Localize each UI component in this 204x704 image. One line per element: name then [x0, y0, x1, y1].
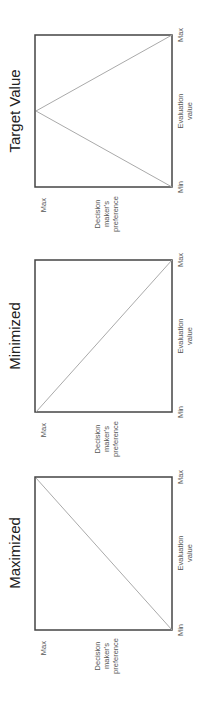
x-axis-max-label: Max: [176, 253, 185, 267]
preference-function-diagram: Target Value Min Max Evaluation value Ma…: [0, 0, 204, 704]
panel-title: Maximized: [6, 517, 23, 589]
preference-curve: [36, 35, 172, 187]
y-axis-title-line1: Decision: [93, 642, 102, 671]
y-axis-title-line2: maker's: [102, 426, 111, 452]
y-axis-title-line3: preference: [111, 196, 120, 232]
x-axis-title-line1: Evaluation: [176, 318, 185, 353]
y-axis-title-line3: preference: [111, 638, 120, 674]
preference-curve: [36, 260, 172, 412]
y-axis-title-line2: maker's: [102, 201, 111, 227]
y-axis-max-label: Max: [39, 198, 48, 212]
y-axis-max-label: Max: [39, 423, 48, 437]
x-axis-max-label: Max: [176, 28, 185, 42]
preference-curve: [36, 478, 172, 630]
panel-maximized: Maximized Min Max Evaluation value Max D…: [6, 470, 194, 674]
x-axis-min-label: Min: [176, 406, 185, 418]
y-axis-title-line2: maker's: [102, 643, 111, 669]
x-axis-min-label: Min: [176, 624, 185, 636]
x-axis-min-label: Min: [176, 181, 185, 193]
panel-title: Target Value: [6, 69, 23, 152]
x-axis-title-line1: Evaluation: [176, 535, 185, 570]
panel-target-value: Target Value Min Max Evaluation value Ma…: [6, 28, 194, 232]
y-axis-title-line1: Decision: [93, 200, 102, 229]
y-axis-title-line1: Decision: [93, 425, 102, 454]
plot-frame: [35, 35, 172, 187]
x-axis-title-line2: value: [185, 327, 194, 345]
x-axis-max-label: Max: [176, 470, 185, 484]
y-axis-max-label: Max: [39, 641, 48, 655]
y-axis-title-line3: preference: [111, 421, 120, 457]
x-axis-title-line2: value: [185, 544, 194, 562]
panel-title: Minimized: [6, 302, 23, 370]
x-axis-title-line2: value: [185, 102, 194, 120]
panel-minimized: Minimized Min Max Evaluation value Max D…: [6, 253, 194, 457]
x-axis-title-line1: Evaluation: [176, 93, 185, 128]
